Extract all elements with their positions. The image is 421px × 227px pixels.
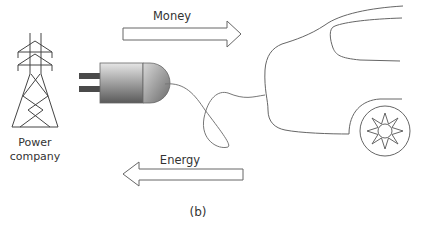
money-arrow-right-icon: [123, 21, 241, 47]
energy-label: Energy: [160, 153, 200, 167]
money-label: Money: [153, 9, 191, 23]
car-outline-icon: [265, 6, 410, 156]
wheel-star-icon: [367, 113, 403, 149]
transmission-tower-icon: [12, 33, 58, 127]
electric-plug-icon: [79, 63, 170, 103]
figure-caption: (b): [190, 205, 207, 219]
plug-cable: [165, 84, 265, 148]
power-company-label-line2: company: [10, 150, 61, 163]
diagram-canvas: Power company Money Energy (b): [0, 0, 421, 227]
power-company-label-line1: Power: [18, 136, 52, 149]
